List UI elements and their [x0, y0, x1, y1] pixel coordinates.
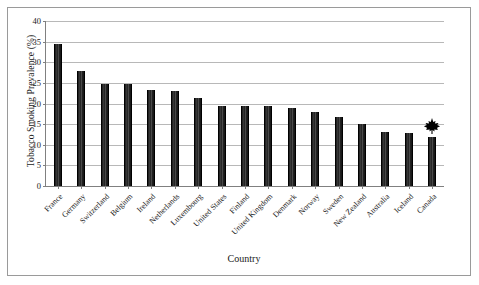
y-tick-mark: [43, 186, 46, 187]
y-tick-label: 30: [33, 57, 42, 67]
bar-group: Sweden: [327, 21, 350, 186]
x-tick-mark: [385, 186, 386, 189]
bar: [218, 106, 226, 186]
y-tick-label: 25: [33, 78, 42, 88]
bar-group: Norway: [304, 21, 327, 186]
y-tick-label: 35: [33, 37, 42, 47]
x-tick-mark: [339, 186, 340, 189]
x-tick-mark: [268, 186, 269, 189]
plot-area: 0510152025303540 FranceGermanySwitzerlan…: [45, 21, 444, 187]
bar-group: United Kingdom: [257, 21, 280, 186]
bar-group: Ireland: [140, 21, 163, 186]
x-tick-mark: [58, 186, 59, 189]
bar-group: Finland: [233, 21, 256, 186]
x-tick-mark: [409, 186, 410, 189]
y-tick-label: 0: [37, 181, 41, 191]
figure-container: Tobacco Smoking Prevalence (%) 051015202…: [0, 0, 479, 285]
bar: [241, 106, 249, 186]
bar: [147, 90, 155, 186]
bar-group: Denmark: [280, 21, 303, 186]
bar-group: Belgium: [116, 21, 139, 186]
x-tick-mark: [81, 186, 82, 189]
bar-group: Iceland: [397, 21, 420, 186]
x-tick-mark: [151, 186, 152, 189]
bar: [54, 44, 62, 186]
x-tick-mark: [105, 186, 106, 189]
y-tick-label: 20: [33, 99, 42, 109]
bar: [77, 71, 85, 186]
bar-group: Luxembourg: [186, 21, 209, 186]
bar: [405, 133, 413, 186]
bar-group: United States: [210, 21, 233, 186]
bar-group: Germany: [69, 21, 92, 186]
bar: [194, 98, 202, 186]
bar: [381, 132, 389, 186]
x-tick-mark: [222, 186, 223, 189]
x-tick-mark: [198, 186, 199, 189]
bar: [428, 137, 436, 186]
x-tick-mark: [175, 186, 176, 189]
bar-group: Switzerland: [93, 21, 116, 186]
bar: [124, 84, 132, 186]
bar: [311, 112, 319, 186]
bar: [288, 108, 296, 186]
bar: [264, 106, 272, 186]
maple-leaf-icon: [423, 117, 441, 135]
x-tick-mark: [128, 186, 129, 189]
x-tick-mark: [362, 186, 363, 189]
y-tick-label: 40: [33, 16, 42, 26]
bar: [101, 84, 109, 186]
bar-group: Canada: [421, 21, 444, 186]
x-tick-mark: [315, 186, 316, 189]
x-tick-mark: [245, 186, 246, 189]
y-tick-label: 5: [37, 160, 41, 170]
x-tick-mark: [292, 186, 293, 189]
x-axis-title: Country: [45, 253, 443, 264]
bar: [358, 124, 366, 186]
bar: [171, 91, 179, 186]
bar-group: Netherlands: [163, 21, 186, 186]
y-tick-label: 10: [33, 140, 42, 150]
bar: [335, 117, 343, 186]
y-tick-label: 15: [33, 119, 42, 129]
bar-group: New Zealand: [350, 21, 373, 186]
bar-series: FranceGermanySwitzerlandBelgiumIrelandNe…: [46, 21, 444, 186]
bar-group: France: [46, 21, 69, 186]
bar-group: Australia: [374, 21, 397, 186]
x-tick-mark: [432, 186, 433, 189]
